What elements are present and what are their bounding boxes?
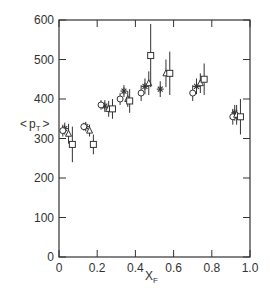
y-tick-label: 600	[34, 13, 54, 27]
square-data-point	[201, 63, 207, 95]
x-axis-label: XF	[145, 269, 158, 285]
circle-data-point	[81, 123, 87, 131]
square-data-point	[90, 135, 96, 155]
y-tick-label: 400	[34, 92, 54, 106]
chart: 0100200300400500600 00.20.40.60.81.0 <pT…	[0, 0, 270, 294]
x-axis-ticks: 00.20.40.60.81.0	[56, 20, 259, 275]
star-data-point	[120, 85, 127, 97]
data-points	[60, 24, 244, 162]
x-tick-label: 1.0	[242, 261, 259, 275]
circle-data-point	[117, 93, 123, 105]
star-data-point	[157, 81, 164, 97]
x-tick-label: 0.8	[203, 261, 220, 275]
plot-frame	[59, 20, 250, 257]
y-axis-label: <pT>	[20, 117, 50, 133]
square-data-point	[109, 99, 115, 119]
x-tick-label: 0.4	[127, 261, 144, 275]
square-data-point	[167, 52, 173, 95]
y-tick-label: 300	[34, 132, 54, 146]
square-data-point	[237, 99, 243, 135]
y-axis-ticks: 0100200300400500600	[34, 13, 250, 264]
y-tick-label: 0	[47, 250, 54, 264]
y-tick-label: 200	[34, 171, 54, 185]
y-tick-label: 500	[34, 53, 54, 67]
x-tick-label: 0.2	[89, 261, 106, 275]
square-data-point	[69, 127, 75, 163]
x-tick-label: 0	[56, 261, 63, 275]
x-tick-label: 0.6	[165, 261, 182, 275]
y-tick-label: 100	[34, 211, 54, 225]
